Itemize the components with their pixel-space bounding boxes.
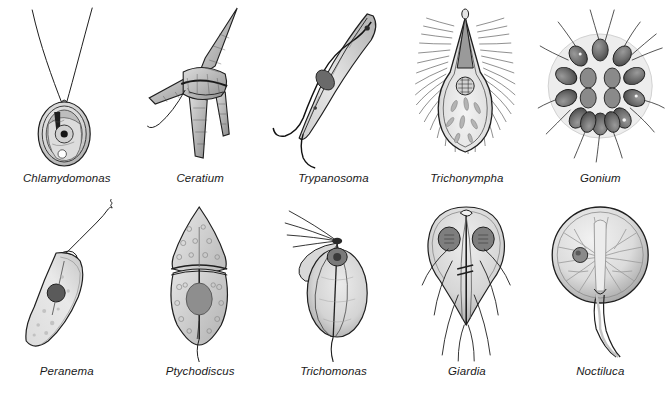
specimen-label: Gonium bbox=[534, 172, 667, 184]
specimen-label: Trichomonas bbox=[267, 365, 400, 377]
trichonympha-icon bbox=[400, 0, 533, 172]
trichomonas-icon bbox=[267, 199, 400, 362]
specimen-label: Ptychodiscus bbox=[133, 365, 266, 377]
specimen-label: Trypanosoma bbox=[267, 172, 400, 184]
specimen-noctiluca: Noctiluca bbox=[534, 199, 667, 398]
specimen-chlamydomonas: Chlamydomonas bbox=[0, 0, 133, 199]
giardia-icon bbox=[400, 199, 533, 362]
trypanosoma-icon bbox=[267, 0, 400, 172]
specimen-ceratium: Ceratium bbox=[133, 0, 266, 199]
specimen-trichomonas: Trichomonas bbox=[267, 199, 400, 398]
specimen-label: Chlamydomonas bbox=[0, 172, 133, 184]
specimen-giardia: Giardia bbox=[400, 199, 533, 398]
ceratium-icon bbox=[133, 0, 266, 172]
specimen-label: Ceratium bbox=[133, 172, 266, 184]
ptychodiscus-icon bbox=[133, 199, 266, 362]
specimen-row-top: Chlamydomonas bbox=[0, 0, 667, 199]
chlamydomonas-icon bbox=[0, 0, 133, 172]
specimen-trichonympha: Trichonympha bbox=[400, 0, 533, 199]
specimen-trypanosoma: Trypanosoma bbox=[267, 0, 400, 199]
specimen-peranema: Peranema bbox=[0, 199, 133, 398]
specimen-label: Trichonympha bbox=[400, 172, 533, 184]
peranema-icon bbox=[0, 199, 133, 362]
specimen-ptychodiscus: Ptychodiscus bbox=[133, 199, 266, 398]
specimen-row-bottom: Peranema bbox=[0, 199, 667, 398]
specimen-label: Noctiluca bbox=[534, 365, 667, 377]
illustration-plate: Chlamydomonas bbox=[0, 0, 667, 398]
gonium-icon bbox=[534, 0, 667, 172]
specimen-gonium: Gonium bbox=[534, 0, 667, 199]
specimen-label: Peranema bbox=[0, 365, 133, 377]
noctiluca-icon bbox=[534, 199, 667, 362]
specimen-label: Giardia bbox=[400, 365, 533, 377]
